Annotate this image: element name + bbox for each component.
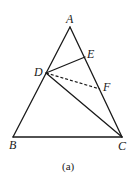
segment-DE [46,57,85,73]
label-C: C [118,139,127,153]
label-B: B [9,138,17,152]
label-D: D [33,65,43,79]
segment-AB [13,27,70,137]
label-E: E [86,47,95,61]
label-F: F [102,80,111,94]
triangle-diagram: A B C D E F (a) [0,0,137,179]
segment-DC [46,73,122,137]
figure-caption: (a) [62,160,75,173]
segment-DF-dashed [46,73,100,89]
label-A: A [65,12,74,26]
segment-AC [70,27,122,137]
